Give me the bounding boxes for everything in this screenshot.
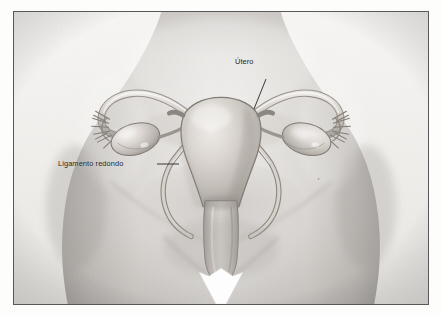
illustration-frame: Útero Ligamento redondo: [13, 11, 429, 305]
illustration-vignette: [14, 12, 428, 304]
annotation-utero-label: Útero: [235, 57, 254, 66]
annotation-utero[interactable]: Útero: [235, 57, 254, 66]
figure-root: Útero Ligamento redondo: [0, 0, 442, 316]
annotation-ligamento-redondo-label: Ligamento redondo: [58, 159, 123, 168]
anatomical-illustration: [14, 12, 428, 304]
annotation-ligamento-redondo[interactable]: Ligamento redondo: [58, 159, 123, 168]
